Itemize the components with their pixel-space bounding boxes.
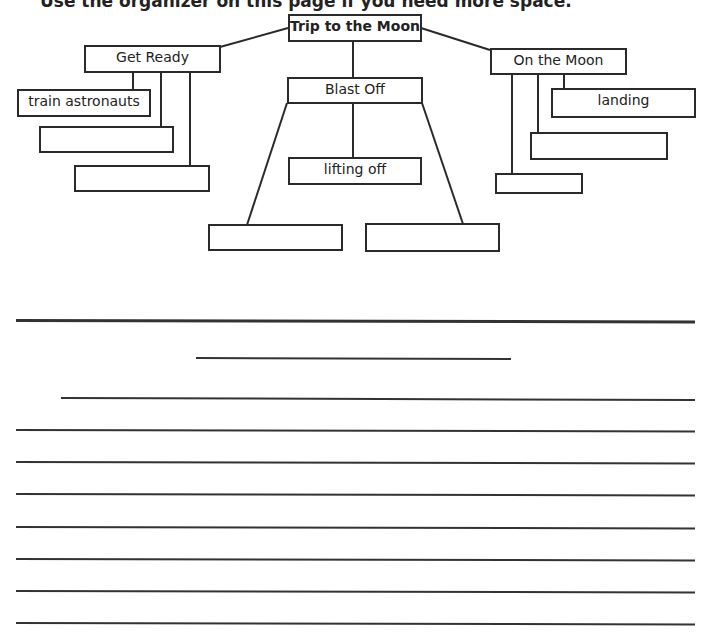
root-node: Trip to the Moon [288,14,422,42]
blast-off-child-1[interactable]: lifting off [288,157,422,185]
get-ready-child-2[interactable] [39,126,174,153]
branch-get-ready: Get Ready [84,45,221,73]
get-ready-child-1[interactable]: train astronauts [17,89,151,117]
on-the-moon-child-1[interactable]: landing [551,88,696,118]
writing-line[interactable] [16,493,695,496]
branch-blast-off: Blast Off [287,77,423,104]
writing-line[interactable] [16,558,695,561]
divider-line [16,319,695,323]
writing-line[interactable] [16,622,695,625]
blast-off-child-2[interactable] [208,224,343,251]
on-the-moon-child-3[interactable] [495,173,583,194]
writing-line[interactable] [16,526,695,529]
title-writing-line[interactable] [196,357,511,360]
writing-line[interactable] [16,429,695,432]
writing-line[interactable] [16,590,695,593]
blast-off-child-3[interactable] [365,223,500,252]
writing-line-indented[interactable] [61,397,695,401]
writing-line[interactable] [16,461,695,464]
get-ready-child-3[interactable] [74,165,210,192]
branch-on-the-moon: On the Moon [490,48,627,75]
on-the-moon-child-2[interactable] [530,132,668,160]
